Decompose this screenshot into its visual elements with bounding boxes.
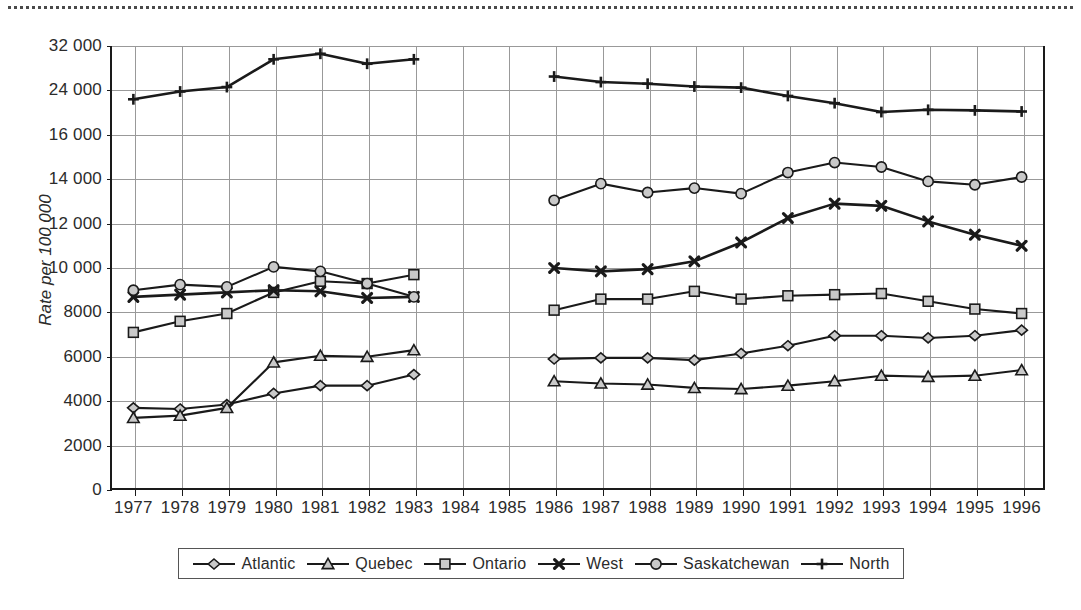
- data-point-marker: [268, 54, 279, 65]
- x-tick-label: 1996: [1002, 498, 1041, 518]
- data-point-marker: [222, 282, 232, 292]
- data-point-marker: [409, 270, 419, 280]
- data-point-marker: [642, 78, 653, 89]
- legend-label: West: [586, 555, 623, 573]
- dotted-separator-rule: [8, 6, 1073, 12]
- x-axis-tick: [743, 490, 744, 496]
- x-axis-labels: 1977197819791980198119821983198419851986…: [110, 498, 1045, 526]
- data-point-marker: [549, 305, 559, 315]
- x-tick-label: 1984: [441, 498, 480, 518]
- data-point-marker: [736, 189, 746, 199]
- x-axis-tick: [276, 490, 277, 496]
- y-tick-label: 24 000: [49, 80, 102, 100]
- data-point-marker: [643, 294, 653, 304]
- x-axis-tick: [509, 490, 510, 496]
- y-tick-label: 2000: [63, 436, 102, 456]
- data-point-marker: [315, 266, 325, 276]
- x-tick-label: 1988: [628, 498, 667, 518]
- legend-marker-square-icon: [423, 556, 467, 572]
- x-axis-tick: [322, 490, 323, 496]
- x-axis-tick: [650, 490, 651, 496]
- x-tick-label: 1995: [956, 498, 995, 518]
- data-point-marker: [315, 48, 326, 59]
- legend-label: Saskatchewan: [683, 555, 789, 573]
- series-atlantic: [128, 325, 1028, 414]
- x-axis-tick: [135, 490, 136, 496]
- legend-item-atlantic[interactable]: Atlantic: [192, 555, 295, 573]
- legend-item-north[interactable]: North: [800, 555, 889, 573]
- legend-label: Quebec: [355, 555, 412, 573]
- series-north: [128, 48, 1027, 117]
- data-point-marker: [221, 82, 232, 93]
- data-point-marker: [782, 341, 794, 351]
- data-point-marker: [829, 98, 840, 109]
- data-point-marker: [1016, 325, 1028, 335]
- x-tick-label: 1994: [909, 498, 948, 518]
- data-point-marker: [595, 353, 607, 363]
- series-saskatchewan: [128, 157, 1026, 302]
- y-tick-label: 0: [92, 480, 102, 500]
- legend-item-quebec[interactable]: Quebec: [306, 555, 412, 573]
- series-west: [129, 199, 1026, 302]
- data-point-marker: [643, 187, 653, 197]
- chart-figure: Rate per 100 000 32 00024 00016 00014 00…: [0, 0, 1081, 610]
- data-point-marker: [829, 331, 841, 341]
- y-tick-label: 12 000: [49, 214, 102, 234]
- data-point-marker: [783, 291, 793, 301]
- x-tick-label: 1980: [254, 498, 293, 518]
- data-point-marker: [876, 289, 886, 299]
- data-point-marker: [1017, 309, 1027, 319]
- x-axis-tick: [603, 490, 604, 496]
- data-point-marker: [689, 81, 700, 92]
- x-axis-tick: [182, 490, 183, 496]
- legend-item-saskatchewan[interactable]: Saskatchewan: [634, 555, 789, 573]
- legend-marker-diamond-icon: [192, 556, 236, 572]
- series-layer: [110, 46, 1045, 490]
- data-point-marker: [548, 354, 560, 364]
- data-point-marker: [361, 381, 373, 391]
- legend-item-ontario[interactable]: Ontario: [423, 555, 526, 573]
- series-quebec: [128, 345, 1028, 423]
- legend-marker-triangle-icon: [306, 556, 350, 572]
- x-axis-tick: [977, 490, 978, 496]
- data-point-marker: [596, 294, 606, 304]
- x-tick-label: 1992: [815, 498, 854, 518]
- data-point-marker: [782, 91, 793, 102]
- legend-marker-glyph: [441, 559, 451, 569]
- data-point-marker: [595, 77, 606, 88]
- data-point-marker: [689, 183, 699, 193]
- data-point-marker: [830, 290, 840, 300]
- y-tick-label: 8000: [63, 302, 102, 322]
- data-point-marker: [268, 388, 280, 398]
- data-point-marker: [269, 262, 279, 272]
- legend-label: Atlantic: [241, 555, 295, 573]
- data-point-marker: [830, 157, 840, 167]
- series-line: [554, 204, 1022, 272]
- data-point-marker: [1016, 106, 1027, 117]
- data-point-marker: [549, 71, 560, 82]
- data-point-marker: [315, 276, 325, 286]
- x-axis-tick: [930, 490, 931, 496]
- legend-item-west[interactable]: West: [537, 555, 623, 573]
- data-point-marker: [876, 107, 887, 118]
- data-point-marker: [362, 278, 372, 288]
- x-tick-label: 1983: [395, 498, 434, 518]
- y-tick-label: 32 000: [49, 36, 102, 56]
- x-axis-tick: [883, 490, 884, 496]
- x-tick-label: 1981: [301, 498, 340, 518]
- data-point-marker: [362, 58, 373, 69]
- chart-legend: AtlanticQuebecOntarioWestSaskatchewanNor…: [178, 548, 904, 579]
- legend-marker-cross-icon: [537, 556, 581, 572]
- data-point-marker: [408, 345, 420, 355]
- data-point-marker: [408, 370, 420, 380]
- legend-marker-glyph: [209, 559, 221, 569]
- data-point-marker: [128, 94, 139, 105]
- y-axis-labels: 32 00024 00016 00014 00012 00010 0008000…: [0, 46, 102, 490]
- legend-marker-glyph: [817, 558, 828, 569]
- data-point-marker: [408, 54, 419, 65]
- data-point-marker: [876, 331, 888, 341]
- data-point-marker: [175, 280, 185, 290]
- y-tick-label: 14 000: [49, 169, 102, 189]
- data-point-marker: [970, 180, 980, 190]
- x-tick-label: 1989: [675, 498, 714, 518]
